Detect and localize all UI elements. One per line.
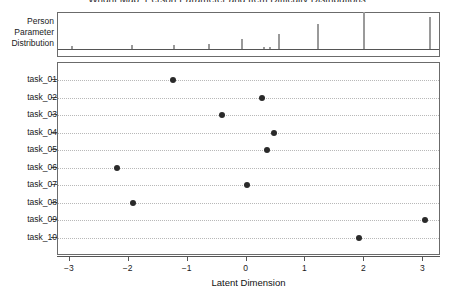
data-point[interactable]: [271, 130, 277, 136]
x-axis-tick: [304, 256, 305, 261]
gridline: [58, 203, 439, 205]
wright-map-figure: Wright Map: Person Parameter and Item Di…: [0, 0, 454, 297]
x-axis-line: [57, 256, 440, 257]
y-axis-label-task_08: task_08: [5, 197, 57, 207]
person-panel-label: Person Parameter Distribution: [0, 16, 54, 49]
chart-title: Wright Map: Person Parameter and Item Di…: [0, 0, 454, 2]
gridline: [58, 150, 439, 152]
gridline: [58, 80, 439, 82]
y-axis-label-task_04: task_04: [5, 127, 57, 137]
gridline: [58, 238, 439, 240]
y-axis: task_01task_02task_03task_04task_05task_…: [0, 62, 57, 255]
y-axis-label-task_09: task_09: [5, 214, 57, 224]
x-axis-tick-label: 0: [243, 263, 248, 273]
person-distribution-spike: [317, 24, 319, 50]
data-point[interactable]: [356, 235, 362, 241]
data-point[interactable]: [114, 165, 120, 171]
data-point[interactable]: [130, 200, 136, 206]
data-point[interactable]: [259, 95, 265, 101]
x-axis-tick-label: −2: [123, 263, 133, 273]
y-axis-label-task_05: task_05: [5, 144, 57, 154]
x-axis-tick-label: 2: [361, 263, 366, 273]
x-axis-tick: [128, 256, 129, 261]
x-axis-tick: [422, 256, 423, 261]
data-point[interactable]: [264, 147, 270, 153]
x-axis-tick: [69, 256, 70, 261]
x-axis-tick-label: −1: [182, 263, 192, 273]
y-axis-label-task_10: task_10: [5, 232, 57, 242]
data-point[interactable]: [422, 217, 428, 223]
gridline: [58, 133, 439, 135]
y-axis-label-task_07: task_07: [5, 179, 57, 189]
x-axis-tick: [363, 256, 364, 261]
y-axis-label-task_01: task_01: [5, 74, 57, 84]
y-axis-label-task_02: task_02: [5, 92, 57, 102]
x-axis-tick: [187, 256, 188, 261]
person-panel-label-line-1: Person: [0, 16, 54, 27]
person-parameter-distribution-panel: [57, 12, 440, 57]
person-distribution-spike: [429, 17, 431, 50]
y-axis-label-task_06: task_06: [5, 162, 57, 172]
person-panel-label-line-3: Distribution: [0, 38, 54, 49]
gridline: [58, 98, 439, 100]
data-point[interactable]: [170, 77, 176, 83]
x-axis-tick-label: 3: [420, 263, 425, 273]
data-point[interactable]: [219, 112, 225, 118]
item-difficulty-panel: [57, 62, 440, 255]
person-panel-label-line-2: Parameter: [0, 27, 54, 38]
x-axis-tick-label: −3: [64, 263, 74, 273]
data-point[interactable]: [244, 182, 250, 188]
x-axis-tick: [246, 256, 247, 261]
person-distribution-spike: [363, 12, 365, 50]
gridline: [58, 115, 439, 117]
y-axis-label-task_03: task_03: [5, 109, 57, 119]
x-axis-title: Latent Dimension: [57, 277, 440, 288]
person-baseline: [58, 49, 439, 50]
x-axis-tick-label: 1: [302, 263, 307, 273]
gridline: [58, 220, 439, 222]
person-distribution-spike: [278, 34, 280, 50]
